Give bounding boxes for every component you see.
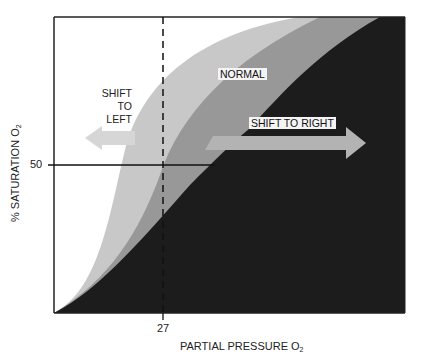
- x-axis-title-subscript: 2: [300, 346, 304, 353]
- x-axis-title-text: PARTIAL PRESSURE O: [180, 340, 300, 352]
- normal-label: NORMAL: [218, 68, 267, 80]
- y-axis-title-subscript: 2: [15, 124, 22, 128]
- shift-right-label: SHIFT TO RIGHT: [249, 117, 336, 129]
- x-tick-label-27: 27: [157, 322, 169, 334]
- y-axis-title: % SATURATION O2: [9, 124, 22, 222]
- shift-left-label: SHIFT TO LEFT: [92, 87, 132, 126]
- oxygen-dissociation-diagram: [0, 0, 441, 363]
- y-axis-title-text: % SATURATION O: [9, 128, 21, 222]
- y-tick-label-50: 50: [30, 158, 42, 170]
- shift-left-line-3: LEFT: [92, 113, 132, 126]
- x-axis-title: PARTIAL PRESSURE O2: [180, 340, 304, 353]
- shift-left-line-1: SHIFT: [92, 87, 132, 100]
- shift-left-line-2: TO: [92, 100, 132, 113]
